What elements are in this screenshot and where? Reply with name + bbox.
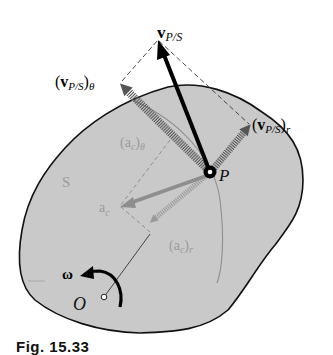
omega-label: ω bbox=[62, 266, 73, 282]
point-p-label: P bbox=[218, 166, 229, 185]
v-ps-label: vP/S bbox=[157, 23, 182, 44]
body-s-label: S bbox=[62, 174, 70, 190]
v-ps-theta-label: (vP/S)θ bbox=[55, 73, 95, 92]
origin-label: O bbox=[73, 294, 86, 314]
figure-caption: Fig. 15.33 bbox=[16, 338, 89, 355]
origin-marker bbox=[101, 294, 107, 300]
